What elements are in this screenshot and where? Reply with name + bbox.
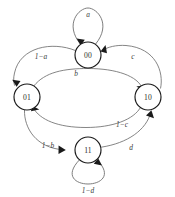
- edge-label-d: d: [129, 143, 133, 152]
- arrow-head-1-minus-b: [59, 146, 66, 154]
- edge-path-d: [101, 113, 151, 148]
- edge-label-a: a: [86, 10, 90, 19]
- edge-label-c: c: [131, 52, 135, 61]
- state-node-00-label: 00: [84, 51, 92, 60]
- state-transition-diagram: 00 01 10 11 a 1−a c b 1−c 1−b d: [0, 0, 175, 197]
- edge-label-b: b: [74, 69, 78, 78]
- arrow-head-d: [146, 110, 154, 118]
- edge-label-layer: a 1−a c b 1−c 1−b d 1−d: [35, 10, 136, 195]
- state-node-11[interactable]: 11: [75, 137, 101, 163]
- state-diagram-canvas: 00 01 10 11 a 1−a c b 1−c 1−b d: [0, 0, 175, 197]
- edge-label-1-minus-b: 1−b: [42, 141, 55, 150]
- state-node-01[interactable]: 01: [14, 84, 40, 110]
- state-node-00[interactable]: 00: [75, 42, 101, 68]
- arrow-head-c: [101, 45, 108, 53]
- edge-01-to-10: [34, 69, 145, 91]
- edge-label-1-minus-d: 1−d: [82, 186, 95, 195]
- state-node-01-label: 01: [23, 93, 31, 102]
- edge-11-to-10: [101, 110, 154, 147]
- state-node-10[interactable]: 10: [135, 84, 161, 110]
- edge-label-1-minus-c: 1−c: [116, 120, 129, 129]
- state-node-10-label: 10: [144, 93, 152, 102]
- edge-label-1-minus-a: 1−a: [35, 52, 48, 61]
- state-node-11-label: 11: [84, 146, 92, 155]
- edge-path-b: [34, 69, 143, 89]
- arrow-head-1-minus-a: [12, 80, 20, 87]
